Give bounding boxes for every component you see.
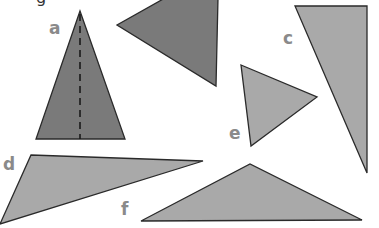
heading-fragment: g xyxy=(36,0,46,7)
triangles-figure: g a c e d f xyxy=(0,0,379,228)
label-e: e xyxy=(229,123,241,143)
triangle-f xyxy=(141,164,362,221)
label-f: f xyxy=(121,199,129,219)
triangle-e xyxy=(241,65,317,146)
label-a: a xyxy=(49,18,60,38)
triangle-b xyxy=(117,0,218,86)
label-c: c xyxy=(283,28,293,48)
label-d: d xyxy=(3,154,15,174)
triangle-c xyxy=(295,6,367,173)
